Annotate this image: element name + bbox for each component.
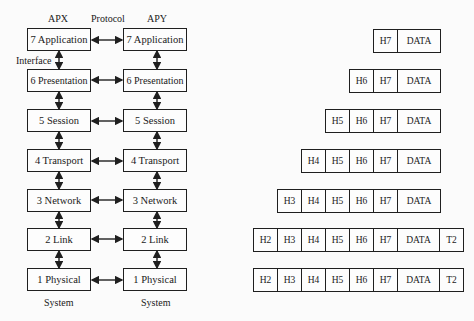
packet-layer-6: H6 H7 DATA — [349, 69, 441, 93]
header-h6: H6 — [350, 70, 374, 92]
header-h2: H2 — [254, 269, 278, 291]
data-payload: DATA — [398, 150, 440, 172]
header-h6: H6 — [350, 110, 374, 132]
header-h5: H5 — [326, 190, 350, 212]
data-payload: DATA — [398, 190, 440, 212]
data-payload: DATA — [398, 30, 440, 52]
header-h5: H5 — [326, 150, 350, 172]
header-h3: H3 — [278, 190, 302, 212]
packet-layer-4: H4 H5 H6 H7 DATA — [301, 149, 441, 173]
packet-layer-5: H5 H6 H7 DATA — [325, 109, 441, 133]
header-h4: H4 — [302, 229, 326, 251]
header-h7: H7 — [374, 70, 398, 92]
data-payload: DATA — [398, 70, 440, 92]
packet-layer-7: H7 DATA — [373, 29, 441, 53]
header-h7: H7 — [374, 190, 398, 212]
header-h3: H3 — [278, 269, 302, 291]
packet-layer-1: H2 H3 H4 H5 H6 H7 DATA T2 — [253, 268, 464, 292]
header-h6: H6 — [350, 269, 374, 291]
header-h5: H5 — [326, 229, 350, 251]
header-h3: H3 — [278, 229, 302, 251]
data-payload: DATA — [398, 110, 440, 132]
header-h4: H4 — [302, 150, 326, 172]
header-h6: H6 — [350, 150, 374, 172]
data-payload: DATA — [398, 229, 440, 251]
header-h4: H4 — [302, 190, 326, 212]
header-h4: H4 — [302, 269, 326, 291]
header-h5: H5 — [326, 110, 350, 132]
data-payload: DATA — [398, 269, 440, 291]
header-h2: H2 — [254, 229, 278, 251]
trailer-t2: T2 — [440, 229, 463, 251]
header-h7: H7 — [374, 269, 398, 291]
packet-layer-2: H2 H3 H4 H5 H6 H7 DATA T2 — [253, 228, 464, 252]
header-h6: H6 — [350, 229, 374, 251]
header-h5: H5 — [326, 269, 350, 291]
header-h7: H7 — [374, 30, 398, 52]
trailer-t2: T2 — [440, 269, 463, 291]
header-h7: H7 — [374, 229, 398, 251]
header-h7: H7 — [374, 150, 398, 172]
header-h7: H7 — [374, 110, 398, 132]
header-h6: H6 — [350, 190, 374, 212]
packet-layer-3: H3 H4 H5 H6 H7 DATA — [277, 189, 441, 213]
